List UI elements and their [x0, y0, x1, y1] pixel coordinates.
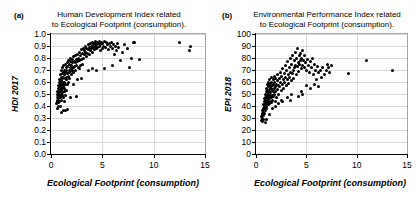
y-tick-mark [252, 46, 255, 47]
scatter-point [310, 66, 313, 69]
scatter-point [72, 83, 75, 86]
y-tick-mark [47, 154, 50, 155]
scatter-point [130, 57, 133, 60]
gridline-horizontal [256, 106, 407, 107]
scatter-point [311, 57, 314, 60]
scatter-point [328, 71, 331, 74]
scatter-point [330, 64, 333, 67]
x-tick-label: 15 [193, 161, 217, 169]
x-axis-line [50, 154, 206, 155]
scatter-point [286, 60, 289, 63]
x-tick-mark [205, 155, 206, 158]
scatter-point [81, 63, 84, 66]
y-tick-mark [252, 130, 255, 131]
scatter-point [107, 48, 110, 51]
scatter-point [292, 77, 295, 80]
scatter-point [391, 69, 394, 72]
y-tick-mark [47, 70, 50, 71]
scatter-point [290, 63, 293, 66]
scatter-point [320, 76, 323, 79]
y-tick-mark [252, 142, 255, 143]
scatter-point [133, 41, 136, 44]
panel-a-x-axis-label: Ecological Footprint (consumption) [30, 178, 216, 188]
scatter-point [87, 69, 90, 72]
y-tick-label: 70 [223, 66, 251, 74]
x-tick-label: 5 [294, 161, 318, 169]
x-tick-label: 0 [244, 161, 268, 169]
scatter-point [299, 52, 302, 55]
figure-root: (a) Human Development Index related to E… [0, 0, 418, 201]
x-tick-mark [306, 155, 307, 158]
y-tick-mark [47, 142, 50, 143]
x-tick-mark [102, 155, 103, 158]
scatter-point [68, 77, 71, 80]
y-tick-label: 40 [223, 102, 251, 110]
scatter-point [308, 71, 311, 74]
scatter-point [365, 59, 368, 62]
y-tick-mark [47, 82, 50, 83]
scatter-point [91, 67, 94, 70]
scatter-point [116, 42, 119, 45]
y-tick-label: 90 [223, 42, 251, 50]
scatter-point [119, 59, 122, 62]
gridline-horizontal [256, 46, 407, 47]
scatter-point [284, 64, 287, 67]
scatter-point [291, 54, 294, 57]
scatter-point [283, 81, 286, 84]
y-tick-mark [47, 58, 50, 59]
x-tick-mark [357, 155, 358, 158]
scatter-point [315, 78, 318, 81]
gridline-horizontal [256, 130, 407, 131]
y-axis-line [255, 33, 256, 155]
scatter-point [189, 45, 192, 48]
scatter-point [126, 47, 129, 50]
scatter-point [117, 46, 120, 49]
gridline-vertical [154, 34, 155, 154]
panel-a-plot-area [50, 33, 206, 155]
scatter-point [316, 65, 319, 68]
scatter-point [67, 81, 70, 84]
scatter-point [113, 53, 116, 56]
scatter-point [80, 77, 83, 80]
scatter-point [285, 69, 288, 72]
x-tick-label: 5 [90, 161, 114, 169]
scatter-point [275, 96, 278, 99]
y-tick-mark [252, 58, 255, 59]
y-tick-mark [252, 94, 255, 95]
scatter-point [59, 105, 62, 108]
y-tick-mark [47, 34, 50, 35]
y-tick-label: 0.8 [18, 54, 46, 62]
panel-b-plot-area [255, 33, 408, 155]
y-tick-label: 0.6 [18, 78, 46, 86]
panel-a-tag: (a) [14, 11, 24, 20]
panel-b-title: Environmental Performance Index related … [236, 10, 418, 30]
scatter-point [65, 89, 68, 92]
y-tick-label: 1.0 [18, 30, 46, 38]
scatter-point [276, 88, 279, 91]
y-tick-label: 10 [223, 138, 251, 146]
x-tick-mark [154, 155, 155, 158]
scatter-point [271, 107, 274, 110]
gridline-horizontal [51, 130, 205, 131]
panel-b-title-line1: Environmental Performance Index related [253, 10, 401, 19]
x-tick-label: 15 [395, 161, 418, 169]
panel-b-tag: (b) [222, 11, 232, 20]
scatter-point [309, 87, 312, 90]
y-tick-label: 60 [223, 78, 251, 86]
scatter-point [111, 64, 114, 67]
scatter-point [295, 73, 298, 76]
y-tick-label: 20 [223, 126, 251, 134]
scatter-point [74, 69, 77, 72]
scatter-point [323, 73, 326, 76]
scatter-point [288, 66, 291, 69]
gridline-horizontal [51, 94, 205, 95]
panel-a-title: Human Development Index related to Ecolo… [34, 10, 204, 30]
scatter-point [286, 96, 289, 99]
scatter-point [263, 112, 266, 115]
panel-a-title-line1: Human Development Index related [57, 10, 181, 19]
gridline-horizontal [51, 118, 205, 119]
scatter-point [276, 73, 279, 76]
scatter-point [297, 70, 300, 73]
scatter-point [63, 100, 66, 103]
scatter-point [290, 93, 293, 96]
